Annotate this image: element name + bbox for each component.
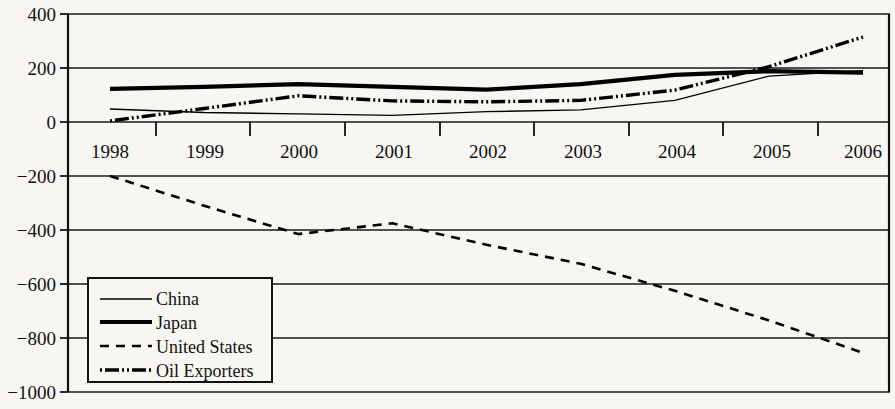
x-tick-label-2004: 2004 (658, 141, 697, 162)
y-tick-label-m400: −400 (17, 220, 56, 241)
x-tick-label-2005: 2005 (753, 141, 791, 162)
y-tick-label-m600: −600 (17, 274, 56, 295)
x-tick-label-1998: 1998 (91, 141, 129, 162)
x-tick-label-2002: 2002 (469, 141, 507, 162)
y-tick-label-400: 400 (28, 4, 57, 25)
legend-label-japan: Japan (156, 313, 197, 333)
x-tick-label-2001: 2001 (375, 141, 413, 162)
legend-label-united-states: United States (156, 337, 253, 357)
y-tick-label-200: 200 (28, 58, 57, 79)
line-chart: 400 200 0 −200 −400 −600 −800 −1000 1998… (0, 0, 895, 409)
y-tick-label-m1000: −1000 (7, 382, 56, 403)
legend-label-china: China (156, 289, 199, 309)
y-tick-marks (60, 14, 68, 392)
x-axis-tick-labels: 1998 1999 2000 2001 2002 2003 2004 2005 … (91, 141, 882, 162)
y-tick-label-0: 0 (47, 112, 57, 133)
x-tick-label-2000: 2000 (280, 141, 318, 162)
y-tick-label-m800: −800 (17, 328, 56, 349)
chart-legend: China Japan United States Oil Exporters (88, 278, 272, 382)
x-tick-label-1999: 1999 (186, 141, 224, 162)
x-tick-label-2003: 2003 (564, 141, 602, 162)
chart-container: 400 200 0 −200 −400 −600 −800 −1000 1998… (0, 0, 895, 409)
x-tick-label-2006: 2006 (844, 141, 882, 162)
y-tick-label-m200: −200 (17, 166, 56, 187)
y-axis-tick-labels: 400 200 0 −200 −400 −600 −800 −1000 (7, 4, 56, 403)
legend-label-oil-exporters: Oil Exporters (156, 361, 253, 381)
